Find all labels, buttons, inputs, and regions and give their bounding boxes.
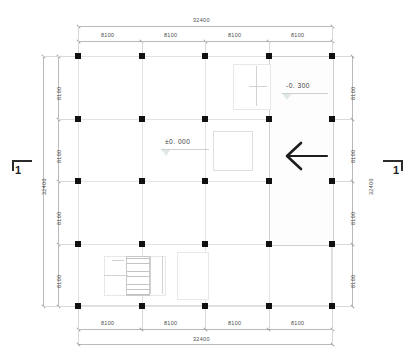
structural-column [202, 303, 208, 309]
section-marker-right[interactable]: 1 [377, 160, 403, 182]
structural-column [139, 53, 145, 59]
bottom-bay-dim-text: 8100 [228, 320, 241, 326]
bottom-overall-dim-text: 32400 [193, 336, 210, 342]
bottom-bay-dim-text: 8100 [291, 320, 304, 326]
top-overall-dim-text: 32400 [193, 17, 210, 23]
extension-line [332, 119, 352, 120]
right-bay-dim-text: 8100 [350, 212, 356, 225]
structural-column [266, 241, 272, 247]
stair-lower-treads [126, 256, 150, 296]
central-room [213, 131, 253, 171]
left-bay-dim-text: 8100 [56, 87, 62, 100]
structural-column [202, 241, 208, 247]
arrow-left-icon [279, 139, 329, 173]
stair-upper-enclosure [233, 64, 271, 110]
extension-line [332, 56, 352, 57]
extension-line [269, 308, 270, 329]
level-label-upper: -0. 300 [286, 82, 310, 89]
left-bay-dim-text: 8100 [56, 275, 62, 288]
structural-column [75, 53, 81, 59]
bottom-bay-dim-text: 8100 [164, 320, 177, 326]
stair-lower-rail [112, 260, 124, 261]
top-bay-dim-text: 8100 [164, 32, 177, 38]
top-bay-dim-text: 8100 [101, 32, 114, 38]
extension-line [43, 306, 78, 307]
right-overall-dim-text: 32400 [368, 178, 374, 195]
right-bay-dim-text: 8100 [350, 87, 356, 100]
structural-column [329, 116, 335, 122]
structural-column [75, 241, 81, 247]
left-bay-dim-text: 8100 [56, 150, 62, 163]
stair-lower-stringer [150, 256, 151, 294]
extension-line [43, 56, 78, 57]
structural-column [266, 178, 272, 184]
structural-column [75, 116, 81, 122]
structural-column [139, 178, 145, 184]
bottom-bay-dim-text: 8100 [101, 320, 114, 326]
extension-line [78, 308, 79, 344]
structural-column [266, 53, 272, 59]
extension-line [332, 308, 333, 344]
section-bar-horizontal [383, 160, 403, 162]
section-marker-right-label: 1 [393, 165, 399, 176]
top-bay-dim-text: 8100 [291, 32, 304, 38]
section-bar-horizontal [12, 160, 32, 162]
section-marker-left-label: 1 [15, 165, 21, 176]
top-overall-dim-line [78, 26, 332, 27]
bottom-overall-dim-line [78, 344, 332, 345]
extension-line [332, 244, 352, 245]
stair-lower-landing-edge [104, 275, 128, 276]
right-bay-dim-text: 8100 [350, 275, 356, 288]
right-bay-dim-text: 8100 [350, 150, 356, 163]
structural-column [202, 178, 208, 184]
structural-column [329, 241, 335, 247]
structural-column [75, 303, 81, 309]
extension-line [332, 181, 352, 182]
structural-column [139, 241, 145, 247]
structural-column [329, 53, 335, 59]
structural-column [139, 303, 145, 309]
structural-column [329, 303, 335, 309]
stair-lower-wall [162, 256, 163, 294]
level-label-main: ±0. 000 [165, 138, 190, 145]
top-bay-dim-text: 8100 [228, 32, 241, 38]
left-bay-dim-text: 8100 [56, 212, 62, 225]
section-marker-left[interactable]: 1 [12, 160, 38, 182]
extension-line [332, 306, 352, 307]
stair-upper-landing-edge [249, 86, 267, 87]
service-room-stack [177, 252, 209, 300]
structural-column [139, 116, 145, 122]
extension-line [205, 308, 206, 329]
structural-column [266, 303, 272, 309]
level-triangle-icon [282, 93, 292, 100]
structural-column [202, 116, 208, 122]
left-overall-dim-text: 32400 [41, 178, 47, 195]
level-triangle-icon [161, 149, 171, 156]
section-bar-vertical [12, 160, 14, 171]
structural-column [75, 178, 81, 184]
structural-column [202, 53, 208, 59]
structural-column [329, 178, 335, 184]
structural-column [266, 116, 272, 122]
extension-line [142, 308, 143, 329]
